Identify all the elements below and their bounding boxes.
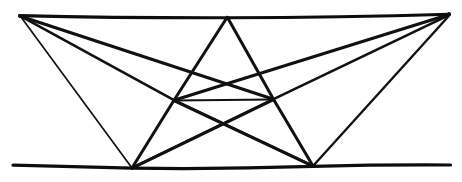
node-inner-left	[172, 98, 175, 101]
node-top-right-corner	[447, 12, 451, 16]
node-top-apex	[226, 16, 229, 19]
node-top-left-corner	[18, 14, 22, 18]
figure-canvas	[0, 0, 462, 182]
node-bottom-right-vertex	[311, 164, 315, 168]
paper-background	[0, 0, 462, 182]
node-bottom-left-vertex	[130, 166, 134, 170]
node-inner-right	[271, 97, 274, 100]
geometric-line-drawing	[0, 0, 462, 182]
edge-inner-chord	[175, 99, 274, 100]
